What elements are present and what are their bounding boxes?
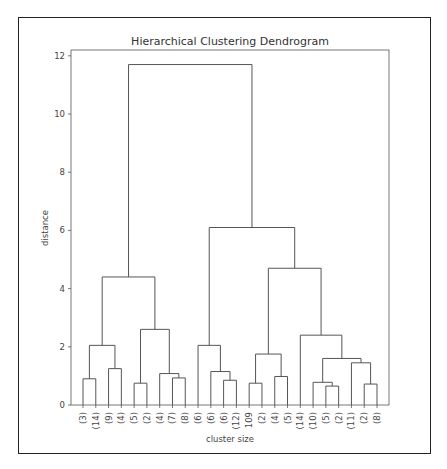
leaf-label: (6) [219,412,229,424]
y-tick-label: 8 [60,167,65,177]
y-tick-label: 0 [60,400,65,410]
leaf-label: (2) [334,412,344,424]
dendrogram-link [198,345,220,405]
leaf-label: (8) [180,412,190,424]
dendrogram-link [275,376,288,405]
dendrogram-link [209,228,294,346]
leaf-label: (11) [346,412,356,429]
y-axis-label: distance [40,210,50,246]
y-axis: 024681012 [54,51,71,410]
dendrogram-link [172,378,185,405]
dendrogram-link [89,345,115,378]
leaf-label: (6) [193,412,203,424]
y-tick-label: 6 [60,225,65,235]
dendrogram-link [211,372,230,405]
y-tick-label: 10 [54,109,65,119]
leaf-label: (14) [295,412,305,429]
dendrogram-link [224,380,237,405]
dendrogram-link [256,354,282,383]
leaf-label: (2) [359,412,369,424]
leaf-label: (10) [308,412,318,429]
leaf-label: (8) [372,412,382,424]
leaf-label: (4) [270,412,280,424]
dendrogram-link [129,65,252,277]
leaf-label: (12) [231,412,241,429]
dendrogram-link [326,386,339,405]
leaf-label: (4) [116,412,126,424]
leaf-label: (14) [91,412,101,429]
dendrogram-link [134,383,147,405]
dendrogram-link [83,379,96,405]
y-tick-label: 4 [60,284,65,294]
leaf-label: (9) [104,412,114,424]
dendrogram-link [249,383,262,405]
leaf-label: (2) [142,412,152,424]
leaf-label: (3) [78,412,88,424]
y-tick-label: 2 [60,342,65,352]
dendrogram-link [300,335,342,405]
dendrogram-link [364,384,377,405]
leaf-label: (2) [257,412,267,424]
x-axis-label: cluster size [206,434,254,444]
dendrogram-link [109,369,122,405]
dendrogram-link [102,277,155,345]
leaf-label: (4) [155,412,165,424]
leaf-label: (5) [321,412,331,424]
leaf-label: (6) [206,412,216,424]
dendrogram-chart: Hierarchical Clustering Dendrogram 02468… [0,0,447,469]
x-axis-leaf-labels: (3)(14)(9)(4)(5)(2)(4)(7)(8)(6)(6)(6)(12… [78,405,382,429]
dendrogram-link [323,358,361,382]
leaf-label: 109 [244,412,254,428]
dendrogram-link [141,329,170,383]
dendrogram-link [268,268,321,354]
chart-title: Hierarchical Clustering Dendrogram [131,35,329,48]
leaf-label: (5) [283,412,293,424]
y-tick-label: 12 [54,51,65,61]
dendrogram-links [83,65,377,405]
leaf-label: (5) [129,412,139,424]
leaf-label: (7) [167,412,177,424]
